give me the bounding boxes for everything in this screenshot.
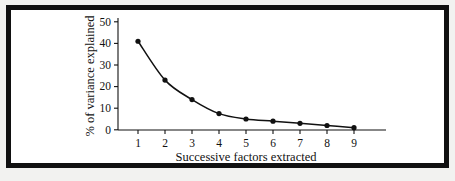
y-tick-label: 40 bbox=[100, 37, 112, 49]
y-tick-label: 50 bbox=[100, 16, 112, 28]
scree-plot-svg: 0 10 20 30 40 50 1 bbox=[0, 0, 455, 181]
x-tick-label: 5 bbox=[243, 137, 249, 149]
variance-curve bbox=[138, 41, 354, 127]
y-tick-label: 20 bbox=[100, 80, 112, 92]
y-axis-title: % of variance explained bbox=[83, 15, 97, 137]
x-tick-label: 6 bbox=[270, 137, 276, 149]
data-point bbox=[162, 78, 167, 83]
x-tick-label: 3 bbox=[189, 137, 195, 149]
y-tick-label: 30 bbox=[100, 59, 112, 71]
figure-background: 0 10 20 30 40 50 1 bbox=[0, 0, 455, 181]
x-tick-label: 9 bbox=[351, 137, 357, 149]
x-tick-marks bbox=[138, 130, 354, 134]
data-point bbox=[216, 111, 221, 116]
data-point bbox=[297, 121, 302, 126]
x-tick-labels: 1 2 3 4 5 6 7 8 9 bbox=[135, 137, 357, 149]
data-point bbox=[351, 125, 356, 130]
y-tick-label: 0 bbox=[105, 124, 111, 136]
data-point bbox=[135, 39, 140, 44]
x-tick-label: 8 bbox=[324, 137, 330, 149]
scree-plot: 0 10 20 30 40 50 1 bbox=[0, 0, 455, 181]
data-point bbox=[270, 119, 275, 124]
y-tick-labels: 0 10 20 30 40 50 bbox=[100, 16, 112, 136]
x-tick-label: 1 bbox=[135, 137, 141, 149]
data-point bbox=[189, 97, 194, 102]
x-axis-title: Successive factors extracted bbox=[176, 150, 318, 164]
data-point bbox=[324, 123, 329, 128]
data-point bbox=[243, 116, 248, 121]
y-tick-marks bbox=[114, 22, 118, 130]
x-tick-label: 4 bbox=[216, 137, 222, 149]
x-tick-label: 7 bbox=[297, 137, 303, 149]
x-tick-label: 2 bbox=[162, 137, 168, 149]
y-tick-label: 10 bbox=[100, 102, 112, 114]
